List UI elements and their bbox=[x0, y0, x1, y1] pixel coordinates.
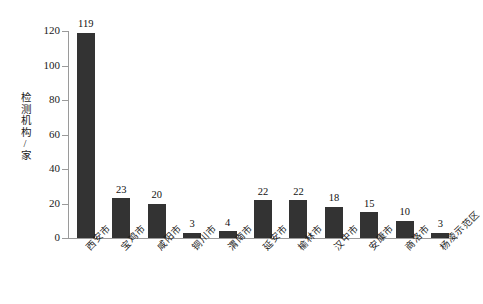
bar-value-label: 18 bbox=[314, 193, 354, 204]
bar-value-label: 119 bbox=[66, 19, 106, 30]
y-axis-tick-label: 100 bbox=[22, 60, 60, 71]
bar-value-label: 10 bbox=[385, 207, 425, 218]
bar-value-label: 22 bbox=[243, 187, 283, 198]
y-axis-tick-label: 120 bbox=[22, 25, 60, 36]
bar-value-label: 15 bbox=[349, 199, 389, 210]
y-axis-tick-label: 80 bbox=[22, 94, 60, 105]
bar-value-label: 23 bbox=[101, 185, 141, 196]
bar-value-label: 20 bbox=[137, 190, 177, 201]
plot-area: 11923203422221815103 bbox=[68, 31, 458, 238]
y-axis-tick-label: 40 bbox=[22, 163, 60, 174]
y-axis-tick-label: 0 bbox=[22, 232, 60, 243]
y-axis-tick-label: 20 bbox=[22, 198, 60, 209]
bar-value-label: 22 bbox=[278, 187, 318, 198]
bar-rect[interactable] bbox=[77, 33, 95, 238]
bar-group[interactable]: 119 bbox=[77, 33, 95, 238]
y-axis-tick-label: 60 bbox=[22, 129, 60, 140]
